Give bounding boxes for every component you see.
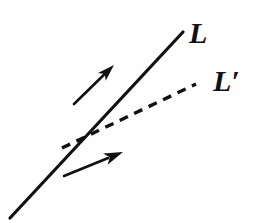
figure-canvas: L L′ <box>0 0 259 223</box>
label-line-L: L <box>189 18 207 48</box>
diagram-svg <box>0 0 259 223</box>
label-line-L-prime: L′ <box>213 66 240 96</box>
figure-background <box>0 0 259 223</box>
